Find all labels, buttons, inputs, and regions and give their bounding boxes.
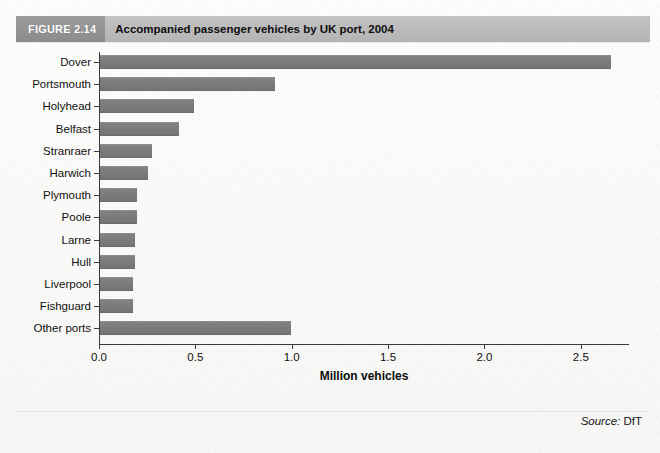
x-axis-tick-label: 1.5: [380, 351, 396, 363]
bar-dover: [100, 55, 611, 69]
y-axis-tick: [94, 84, 99, 85]
y-axis-tick: [94, 151, 99, 152]
y-axis-tick: [94, 284, 99, 285]
x-axis-tick: [99, 344, 100, 349]
y-axis-tick: [94, 106, 99, 107]
category-label: Holyhead: [42, 99, 91, 113]
x-axis-tick-label: 2.0: [476, 351, 492, 363]
source-organisation: DfT: [623, 415, 642, 427]
category-label: Poole: [62, 210, 91, 224]
source-note: Source: DfT: [581, 415, 642, 427]
x-axis-line: [99, 344, 629, 345]
x-axis-tick: [484, 344, 485, 349]
category-label: Hull: [71, 255, 91, 269]
category-label: Portsmouth: [32, 77, 91, 91]
category-label: Dover: [60, 55, 91, 69]
y-axis-tick: [94, 173, 99, 174]
x-axis-tick: [195, 344, 196, 349]
category-label: Belfast: [56, 122, 91, 136]
figure-banner: FIGURE 2.14 Accompanied passenger vehicl…: [16, 16, 650, 42]
x-axis-tick: [581, 344, 582, 349]
figure-number-label: FIGURE 2.14: [16, 16, 105, 42]
figure-title: Accompanied passenger vehicles by UK por…: [105, 16, 650, 42]
y-axis-tick: [94, 262, 99, 263]
bar-liverpool: [100, 277, 133, 291]
x-axis-tick-label: 0.5: [187, 351, 203, 363]
y-axis-tick: [94, 195, 99, 196]
bar-stranraer: [100, 144, 152, 158]
y-axis-tick: [94, 129, 99, 130]
bar-plymouth: [100, 188, 137, 202]
x-axis-tick-label: 2.5: [573, 351, 589, 363]
y-axis-tick: [94, 328, 99, 329]
category-label: Other ports: [33, 321, 91, 335]
bar-fishguard: [100, 299, 133, 313]
y-axis-tick: [94, 217, 99, 218]
category-axis-labels: DoverPortsmouthHolyheadBelfastStranraerH…: [16, 52, 99, 344]
figure-page: FIGURE 2.14 Accompanied passenger vehicl…: [0, 0, 660, 453]
bar-poole: [100, 210, 137, 224]
footer-divider: [16, 411, 650, 412]
bar-belfast: [100, 122, 179, 136]
x-axis-tick-label: 1.0: [284, 351, 300, 363]
x-axis-title: Million vehicles: [99, 369, 629, 383]
bar-other-ports: [100, 321, 291, 335]
category-label: Stranraer: [43, 144, 91, 158]
x-axis-tick-label: 0.0: [91, 351, 107, 363]
category-label: Fishguard: [40, 299, 91, 313]
category-label: Plymouth: [43, 188, 91, 202]
y-axis-tick: [94, 62, 99, 63]
x-axis-tick: [388, 344, 389, 349]
category-label: Liverpool: [44, 277, 91, 291]
y-axis-tick: [94, 240, 99, 241]
bar-chart: DoverPortsmouthHolyheadBelfastStranraerH…: [16, 52, 650, 382]
y-axis-tick: [94, 306, 99, 307]
x-axis-tick: [292, 344, 293, 349]
bar-harwich: [100, 166, 148, 180]
bar-hull: [100, 255, 135, 269]
bar-holyhead: [100, 99, 194, 113]
plot-area: [99, 52, 650, 344]
source-label: Source:: [581, 415, 621, 427]
category-label: Larne: [62, 233, 91, 247]
bar-portsmouth: [100, 77, 275, 91]
bar-larne: [100, 233, 135, 247]
category-label: Harwich: [49, 166, 91, 180]
